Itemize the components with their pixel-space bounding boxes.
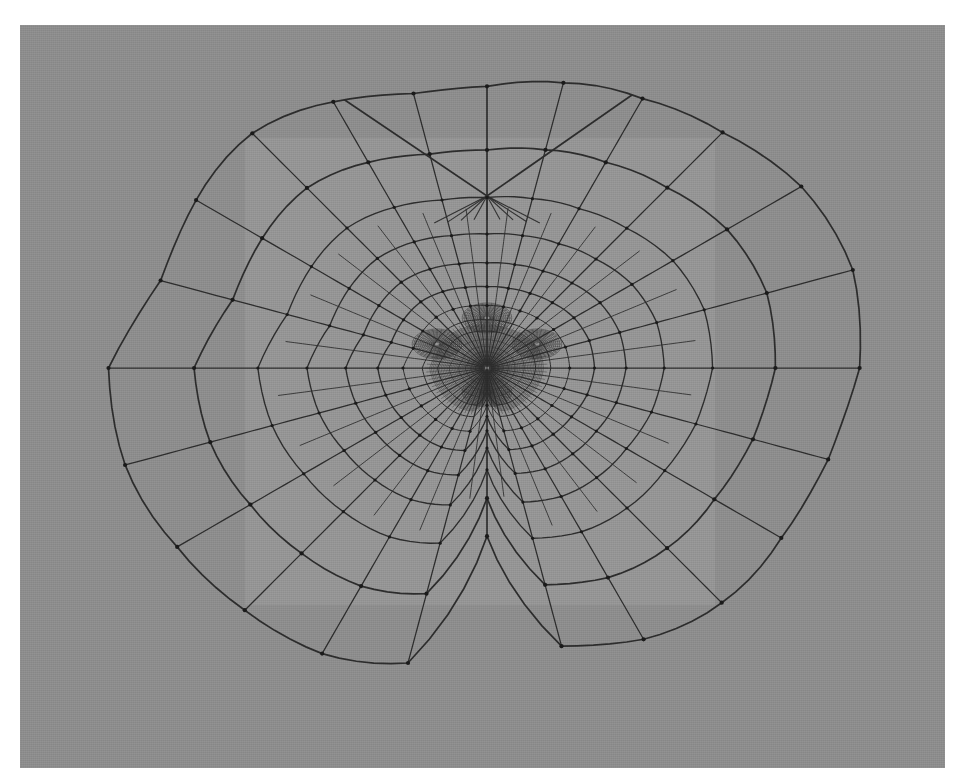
mesh-vertex (468, 430, 471, 433)
mesh-vertex (439, 542, 442, 545)
mesh-vertex (485, 429, 488, 432)
mesh-vertex (485, 232, 488, 235)
mesh-vertex (406, 661, 410, 665)
mesh-vertex (765, 291, 769, 295)
mesh-vertex (393, 206, 396, 209)
mesh-vertex (318, 411, 321, 414)
mesh-vertex (451, 427, 454, 430)
mesh-vertex (192, 366, 196, 370)
mesh-vertex (344, 366, 347, 369)
mesh-vertex (725, 227, 729, 231)
mesh-vertex (231, 298, 235, 302)
mesh-vertex (458, 262, 461, 265)
mesh-vertex (594, 257, 597, 260)
mesh-vertex (208, 440, 212, 444)
mesh-vertex (409, 498, 412, 501)
mesh-vertex (564, 345, 567, 348)
mesh-vertex (655, 321, 658, 324)
mesh-vertex (485, 496, 489, 500)
mesh-vertex (604, 160, 608, 164)
mesh-vertex (402, 318, 405, 321)
mesh-vertex (159, 278, 163, 282)
mesh-vertex (552, 328, 555, 331)
mesh-vertex (721, 130, 725, 134)
mesh-vertex (799, 184, 803, 188)
mesh-vertex (194, 198, 198, 202)
mesh-vertex (305, 366, 308, 369)
mesh-vertex (665, 186, 669, 190)
mesh-vertex (502, 305, 505, 308)
mesh-vertex (366, 160, 370, 164)
mesh-vertex (518, 309, 521, 312)
mesh-vertex (300, 551, 304, 555)
mesh-vertex (398, 454, 401, 457)
mesh-vertex (665, 546, 669, 550)
mesh-vertex (328, 324, 331, 327)
mesh-vertex (779, 536, 783, 540)
mesh-vertex (531, 197, 534, 200)
screenshot-root (0, 0, 966, 783)
mesh-vertex (440, 445, 443, 448)
mesh-vertex (640, 97, 644, 101)
mesh-vertex (507, 287, 510, 290)
mesh-vertex (513, 263, 516, 266)
mesh-vertex (376, 257, 379, 260)
mesh-vertex (485, 285, 488, 288)
mesh-vertex (642, 637, 646, 641)
mesh-vertex (663, 366, 666, 369)
mesh-vertex (450, 234, 453, 237)
mesh-vertex (544, 467, 547, 470)
mesh-vertex (435, 316, 438, 319)
mesh-vertex (485, 84, 489, 88)
mesh-vertex (625, 366, 628, 369)
mesh-vertex (452, 308, 455, 311)
mesh-vertex (543, 148, 547, 152)
mesh-vertex (568, 366, 571, 369)
mesh-vertex (720, 601, 724, 605)
mesh-vertex (376, 366, 379, 369)
mesh-vertex (530, 444, 533, 447)
mesh-vertex (320, 652, 324, 656)
mesh-vertex (449, 503, 452, 506)
mesh-vertex (618, 331, 621, 334)
mesh-vertex (485, 404, 488, 407)
mesh-vertex (570, 281, 573, 284)
mesh-vertex (543, 583, 547, 587)
mesh-vertex (595, 430, 598, 433)
mesh-vertex (408, 387, 411, 390)
mesh-viewport[interactable] (20, 25, 945, 768)
mesh-vertex (374, 431, 377, 434)
mesh-vertex (400, 416, 403, 419)
mesh-vertex (457, 473, 460, 476)
mesh-vertex (694, 422, 697, 425)
wireframe-canvas (20, 25, 945, 768)
mesh-vertex (485, 304, 488, 307)
mesh-vertex (485, 534, 489, 538)
mesh-vertex (826, 457, 830, 461)
mesh-vertex (586, 393, 589, 396)
mesh-vertex (557, 242, 560, 245)
mesh-vertex (858, 366, 862, 370)
mesh-vertex (630, 283, 633, 286)
mesh-vertex (175, 545, 179, 549)
mesh-vertex (485, 446, 488, 449)
mesh-vertex (536, 417, 539, 420)
mesh-vertex (485, 148, 489, 152)
mesh-vertex (286, 313, 289, 316)
mesh-vertex (440, 198, 443, 201)
mesh-vertex (531, 537, 534, 540)
mesh-vertex (559, 644, 563, 648)
mesh-vertex (712, 497, 716, 501)
mesh-vertex (514, 472, 517, 475)
mesh-vertex (570, 415, 573, 418)
mesh-vertex (773, 366, 777, 370)
mesh-vertex (671, 259, 674, 262)
mesh-vertex (260, 236, 264, 240)
mesh-vertex (507, 448, 510, 451)
mesh-vertex (348, 287, 351, 290)
mesh-vertex (343, 449, 346, 452)
mesh-vertex (572, 316, 575, 319)
mesh-vertex (469, 305, 472, 308)
mesh-vertex (310, 265, 313, 268)
mesh-vertex (751, 437, 755, 441)
